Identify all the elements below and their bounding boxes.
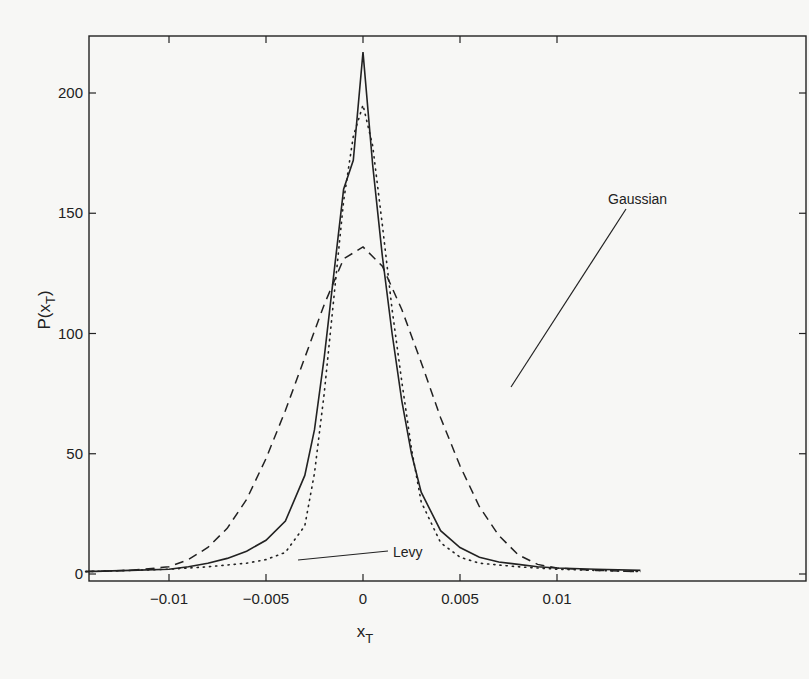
gaussian-leader-line xyxy=(511,209,626,387)
x-axis-title-sub: T xyxy=(365,631,373,646)
ticks: −0.01−0.00500.0050.01050100150200 xyxy=(58,36,806,607)
y-tick-label: 0 xyxy=(75,565,83,582)
levy-series-line xyxy=(86,105,641,572)
x-axis-title: xT xyxy=(357,622,374,646)
gaussian-series-line xyxy=(86,247,641,572)
y-axis-title-close: ) xyxy=(35,290,54,296)
y-axis-title-sub: T xyxy=(43,296,58,304)
y-tick-label: 100 xyxy=(58,325,83,342)
y-axis-title: P(xT) xyxy=(35,290,58,329)
series-lines xyxy=(86,52,641,572)
x-tick-label: −0.005 xyxy=(243,590,289,607)
chart-canvas: −0.01−0.00500.0050.01050100150200 Gaussi… xyxy=(0,0,809,679)
x-tick-label: 0 xyxy=(359,590,367,607)
gaussian-label: Gaussian xyxy=(608,191,667,207)
x-tick-label: −0.01 xyxy=(150,590,188,607)
y-tick-label: 200 xyxy=(58,84,83,101)
svg-text:xT: xT xyxy=(357,622,374,646)
x-tick-label: 0.01 xyxy=(542,590,571,607)
annotations: Gaussian Levy xyxy=(298,191,667,560)
plot-frame xyxy=(89,36,806,581)
x-tick-label: 0.005 xyxy=(441,590,479,607)
levy-label: Levy xyxy=(393,544,423,560)
levy-leader-line xyxy=(298,551,388,560)
y-tick-label: 50 xyxy=(66,445,83,462)
y-tick-label: 150 xyxy=(58,204,83,221)
axes-frame xyxy=(89,36,806,581)
y-axis-title-main: P(x xyxy=(35,304,54,330)
svg-text:P(xT): P(xT) xyxy=(35,290,58,329)
empirical-series-line xyxy=(86,52,641,572)
